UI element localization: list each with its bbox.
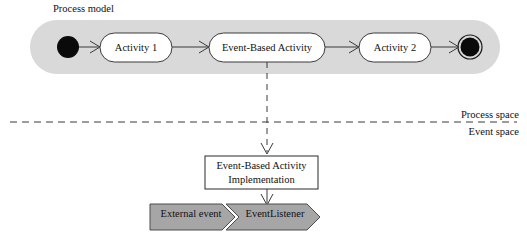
- implementation-box-line-2: Implementation: [205, 175, 318, 186]
- implementation-box-line-1: Event-Based Activity: [205, 161, 318, 172]
- initial-node-icon: [57, 36, 79, 58]
- process-model-caption: Process model: [53, 4, 114, 15]
- external-event-label: External event: [152, 209, 230, 220]
- event-space-label: Event space: [381, 127, 519, 138]
- final-node-icon: [461, 38, 480, 57]
- process-space-label: Process space: [381, 110, 519, 121]
- event-based-activity-label: Event-Based Activity: [212, 43, 322, 54]
- activity-1-label: Activity 1: [103, 43, 169, 54]
- diagram-canvas: Process model Activity 1 Event-Based Act…: [0, 0, 527, 243]
- diagram-svg: [0, 0, 527, 243]
- activity-2-label: Activity 2: [362, 43, 428, 54]
- event-listener-label: EventListener: [232, 209, 318, 220]
